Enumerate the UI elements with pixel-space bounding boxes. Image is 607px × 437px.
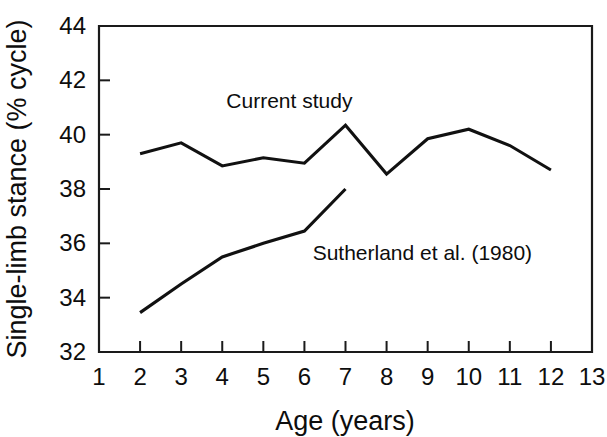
y-axis-tick-labels: 32343638404244: [59, 12, 86, 365]
x-tick-label: 4: [216, 363, 229, 390]
x-tick-label: 12: [538, 363, 565, 390]
y-axis-title: Single-limb stance (% cycle): [2, 19, 32, 358]
y-axis-ticks: [99, 80, 110, 297]
x-axis-title: Age (years): [275, 406, 415, 436]
chart-figure: 32343638404244 12345678910111213 Current…: [0, 0, 607, 437]
x-tick-label: 3: [174, 363, 187, 390]
y-tick-label: 32: [59, 338, 86, 365]
y-tick-label: 36: [59, 229, 86, 256]
y-tick-label: 40: [59, 121, 86, 148]
x-tick-label: 6: [298, 363, 311, 390]
x-axis-ticks: [140, 341, 551, 352]
y-tick-label: 38: [59, 175, 86, 202]
x-tick-label: 2: [133, 363, 146, 390]
data-series-group: [140, 125, 551, 312]
y-tick-label: 44: [59, 12, 86, 39]
x-tick-label: 9: [421, 363, 434, 390]
x-tick-label: 8: [380, 363, 393, 390]
x-axis-tick-labels: 12345678910111213: [92, 363, 605, 390]
series-label-sutherland: Sutherland et al. (1980): [313, 241, 532, 264]
series-line-1: [140, 125, 551, 174]
x-tick-label: 1: [92, 363, 105, 390]
x-tick-label: 13: [579, 363, 606, 390]
y-tick-label: 34: [59, 284, 86, 311]
x-tick-label: 5: [257, 363, 270, 390]
x-tick-label: 10: [455, 363, 482, 390]
x-tick-label: 7: [339, 363, 352, 390]
series-label-current-study: Current study: [226, 89, 353, 112]
x-tick-label: 11: [497, 363, 522, 390]
y-tick-label: 42: [59, 66, 86, 93]
line-chart-svg: 32343638404244 12345678910111213 Current…: [0, 0, 607, 437]
